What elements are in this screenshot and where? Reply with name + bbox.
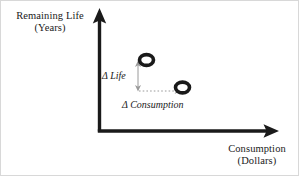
x-axis-label-title: Consumption bbox=[215, 143, 299, 155]
data-point-high-life bbox=[140, 55, 154, 66]
data-point-markers bbox=[140, 55, 190, 93]
y-axis-label-title: Remaining Life bbox=[7, 10, 93, 22]
delta-consumption-label: Δ Consumption bbox=[122, 99, 184, 111]
delta-life-label: Δ Life bbox=[102, 70, 126, 82]
x-axis-label-unit: (Dollars) bbox=[215, 155, 299, 167]
y-axis-label: Remaining Life (Years) bbox=[7, 10, 93, 34]
delta-life-arrow bbox=[135, 61, 141, 92]
x-axis-label: Consumption (Dollars) bbox=[215, 143, 299, 167]
diagram-canvas: Remaining Life (Years) Consumption (Doll… bbox=[0, 0, 299, 176]
data-point-high-life-hub bbox=[143, 58, 150, 62]
y-axis-label-unit: (Years) bbox=[7, 22, 93, 34]
data-point-low-life-hub bbox=[179, 85, 186, 89]
data-point-low-life bbox=[176, 82, 190, 93]
